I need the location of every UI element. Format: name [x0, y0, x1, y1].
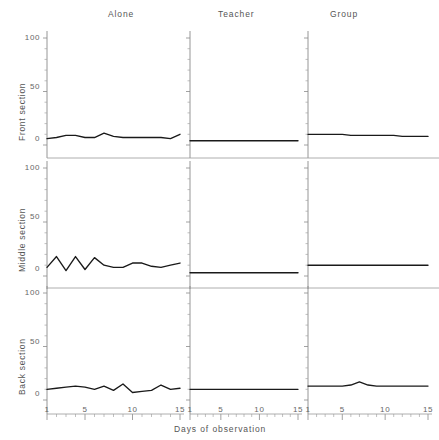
xtick-label-teacher-5: 5 [209, 405, 233, 414]
xtick-label-group-10: 10 [373, 405, 397, 414]
xtick-label-group-1: 1 [296, 405, 320, 414]
data-line-back-alone [47, 384, 180, 393]
data-line-back-group [308, 382, 428, 386]
xtick-label-teacher-1: 1 [178, 405, 202, 414]
data-line-middle-alone [47, 257, 180, 271]
data-line-front-group [308, 134, 428, 136]
data-line-front-alone [47, 133, 180, 138]
figure-canvas: Alone Teacher Group Front section Middle… [0, 0, 439, 440]
plot-vector-layer [0, 0, 439, 440]
xtick-label-group-15: 15 [416, 405, 439, 414]
xtick-label-alone-5: 5 [73, 405, 97, 414]
xtick-label-alone-10: 10 [121, 405, 145, 414]
xtick-label-group-5: 5 [330, 405, 354, 414]
xtick-label-alone-1: 1 [35, 405, 59, 414]
xtick-label-teacher-10: 10 [247, 405, 271, 414]
